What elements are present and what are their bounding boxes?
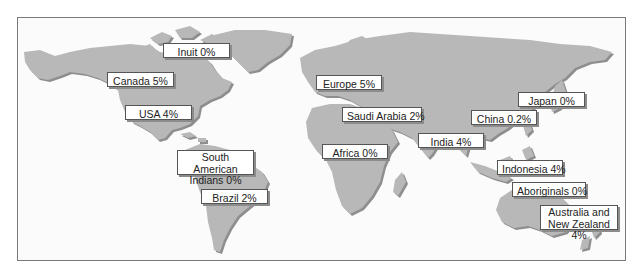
map-label-indonesia: Indonesia 4% (497, 160, 563, 175)
map-label-europe: Europe 5% (316, 75, 382, 90)
map-label-japan: Japan 0% (518, 92, 585, 107)
map-label-canada: Canada 5% (107, 72, 174, 87)
world-map (0, 0, 643, 274)
map-label-china: China 0.2% (471, 110, 537, 125)
north-america-landmass (24, 44, 232, 140)
map-label-aboriginals: Aboriginals 0% (512, 182, 586, 197)
madagascar (393, 172, 406, 196)
map-label-saudi-arabia: Saudi Arabia 2% (342, 107, 422, 122)
caribbean-islands (180, 132, 206, 142)
map-label-india: India 4% (418, 133, 484, 148)
map-label-south-american-indians: South American Indians 0% (177, 150, 254, 175)
map-label-inuit: Inuit 0% (163, 43, 230, 58)
map-label-usa: USA 4% (125, 105, 192, 120)
map-label-africa: Africa 0% (322, 144, 388, 159)
map-label-brazil: Brazil 2% (201, 189, 268, 204)
map-label-australia-nz: Australia and New Zealand 4% (540, 205, 618, 230)
